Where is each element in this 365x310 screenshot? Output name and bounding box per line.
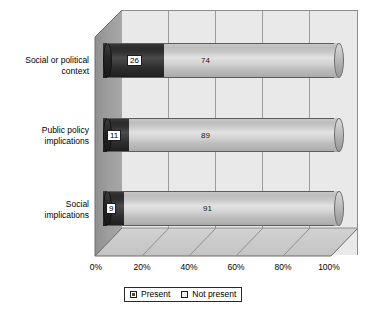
value-label-present-1: 26 — [127, 55, 142, 66]
cylinder-cap-right — [334, 191, 344, 226]
bar-top-edge — [107, 43, 334, 44]
value-label-present-2: 11 — [107, 130, 121, 141]
value-label-not-present-2: 89 — [201, 131, 210, 140]
bar-segment-not-present — [124, 191, 339, 226]
cylinder-cap-right — [334, 118, 344, 152]
bar-row-social-implications — [103, 191, 339, 226]
category-label-social-implications: Social implications — [0, 199, 89, 220]
legend-swatch-present-icon — [130, 291, 137, 298]
xtick-label-20: 20% — [128, 262, 156, 272]
bar-top-edge — [107, 191, 334, 192]
cylinder-cap-right — [334, 43, 344, 78]
bar-bottom-edge — [107, 77, 334, 78]
value-label-present-3: 9 — [106, 203, 116, 214]
xtick-label-60: 60% — [222, 262, 250, 272]
category-label-social-or-political-context: Social or political context — [0, 55, 89, 76]
value-label-not-present-1: 74 — [201, 56, 210, 65]
chart-3d-stacked-bar: 26 74 11 89 9 91 Social or political con… — [0, 0, 365, 310]
chart-legend: Present Not present — [124, 287, 242, 302]
bar-bottom-edge — [107, 225, 334, 226]
value-label-not-present-3: 91 — [203, 204, 212, 213]
legend-label-present: Present — [141, 289, 170, 299]
xtick-label-100: 100% — [313, 262, 345, 272]
chart-floor — [95, 228, 358, 256]
bar-top-edge — [107, 118, 334, 119]
legend-item-present: Present — [130, 289, 170, 299]
xtick-label-40: 40% — [175, 262, 203, 272]
legend-swatch-not-present-icon — [181, 291, 188, 298]
xtick-label-0: 0% — [82, 262, 110, 272]
legend-label-not-present: Not present — [192, 289, 236, 299]
bar-segment-not-present — [164, 43, 339, 78]
legend-item-not-present: Not present — [181, 289, 236, 299]
bar-row-public-policy-implications — [103, 118, 339, 152]
bar-bottom-edge — [107, 151, 334, 152]
xtick-label-80: 80% — [269, 262, 297, 272]
bar-segment-not-present — [129, 118, 339, 152]
chart-plot-area: 26 74 11 89 9 91 Social or political con… — [0, 0, 365, 310]
category-label-public-policy-implications: Public policy implications — [0, 125, 89, 146]
cylinder-cap-left — [103, 43, 112, 78]
